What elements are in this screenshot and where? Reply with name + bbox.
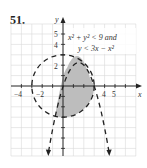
x-axis-arrow-icon bbox=[136, 84, 142, 89]
inequality-graph: y x −4 −2 4 5 5 4 2 x² + y² < 9 and y < … bbox=[0, 0, 147, 168]
x-axis-label: x bbox=[137, 90, 142, 99]
x-tick-label: −2 bbox=[36, 90, 44, 99]
y-tick-label: 2 bbox=[54, 62, 58, 71]
parabola-left-arrow-icon bbox=[46, 150, 51, 157]
y-tick-label: 4 bbox=[54, 41, 58, 50]
inequality-line-1: x² + y² < 9 and bbox=[67, 33, 118, 42]
y-tick-label: 5 bbox=[54, 30, 58, 39]
y-axis-arrow-icon bbox=[61, 17, 66, 23]
inequality-line-2: y < 3x − x² bbox=[77, 44, 114, 53]
x-tick-label: 4 bbox=[102, 90, 106, 99]
x-tick-label: 5 bbox=[112, 90, 116, 99]
x-tick-label: −4 bbox=[14, 90, 22, 99]
y-axis-label: y bbox=[54, 15, 59, 24]
parabola-right-arrow-icon bbox=[107, 150, 112, 157]
